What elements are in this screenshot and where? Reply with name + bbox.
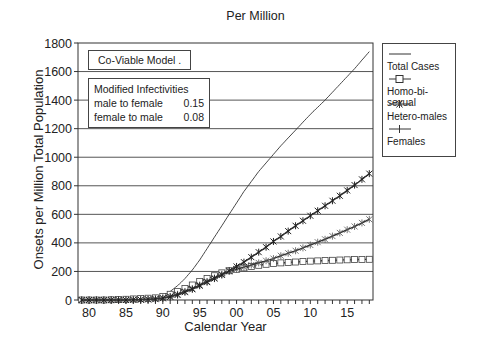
svg-text:800: 800 <box>51 179 72 193</box>
y-axis-ticks: 020040060080010001200140016001800 <box>44 37 78 308</box>
infectivity-row: female to male 0.08 <box>94 110 204 124</box>
svg-text:05: 05 <box>266 306 280 320</box>
svg-text:10: 10 <box>303 306 317 320</box>
svg-text:90: 90 <box>156 306 170 320</box>
model-annotation: Co-Viable Model . <box>88 50 191 70</box>
svg-text:1600: 1600 <box>44 65 72 79</box>
infectivity-heading: Modified Infectivities <box>94 82 204 96</box>
svg-text:1200: 1200 <box>44 122 72 136</box>
svg-text:200: 200 <box>51 265 72 279</box>
legend-item-females: Females <box>387 123 451 148</box>
svg-text:15: 15 <box>340 306 354 320</box>
svg-text:1400: 1400 <box>44 94 72 108</box>
infectivity-row: male to female 0.15 <box>94 96 204 110</box>
infectivity-annotation: Modified Infectivities male to female 0.… <box>88 78 210 128</box>
svg-text:80: 80 <box>82 306 96 320</box>
legend: Total Cases Homo-bi-sexual Hetero-males … <box>382 43 456 157</box>
legend-item-total-cases: Total Cases <box>387 48 451 73</box>
svg-text:400: 400 <box>51 236 72 250</box>
svg-text:95: 95 <box>193 306 207 320</box>
square-marker-icon <box>387 73 417 84</box>
svg-text:0: 0 <box>65 294 72 308</box>
legend-item-homo-bi-sexual: Homo-bi-sexual <box>387 73 451 98</box>
svg-text:600: 600 <box>51 208 72 222</box>
legend-item-hetero-males: Hetero-males <box>387 98 451 123</box>
asterisk-marker-icon <box>387 98 417 109</box>
line-icon <box>387 48 417 59</box>
svg-text:85: 85 <box>119 306 133 320</box>
svg-text:00: 00 <box>230 306 244 320</box>
plus-marker-icon <box>387 123 417 134</box>
svg-text:1800: 1800 <box>44 37 72 51</box>
svg-text:1000: 1000 <box>44 151 72 165</box>
x-axis-ticks: 8085909500051015 <box>82 300 370 320</box>
